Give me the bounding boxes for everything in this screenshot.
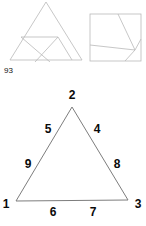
segment-label-9: 9 [25, 158, 32, 170]
square-outline [90, 14, 141, 61]
segment-label-8: 8 [114, 158, 121, 170]
figure-caption: 93 [4, 66, 13, 76]
page-canvas: 93 2 5 4 9 8 1 6 7 3 [0, 0, 146, 226]
labelled-triangle-svg [0, 86, 146, 226]
segment-label-7: 7 [90, 206, 97, 218]
vertex-label-3: 3 [135, 198, 142, 210]
vertex-label-2: 2 [69, 89, 76, 101]
square-internal-segment-1 [118, 14, 135, 50]
segment-label-4: 4 [94, 123, 101, 135]
square-internal-segment-2 [90, 45, 135, 50]
subdivided-square-figure [88, 12, 143, 63]
segment-label-5: 5 [45, 123, 52, 135]
subdivided-square-svg [88, 12, 143, 63]
triangle-internal-segment-3 [35, 37, 58, 62]
square-internal-segment-3 [135, 39, 141, 50]
triangle-outline [10, 2, 82, 60]
segment-label-6: 6 [50, 206, 57, 218]
vertex-label-1: 1 [3, 198, 10, 210]
subdivided-triangle-svg [8, 0, 84, 62]
triangle-internal-segment-1 [21, 37, 50, 62]
labelled-triangle-figure: 2 5 4 9 8 1 6 7 3 [0, 86, 146, 226]
reference-figure-row [0, 0, 146, 66]
subdivided-triangle-figure [8, 0, 84, 62]
main-triangle-outline [16, 107, 128, 201]
square-internal-segment-4 [125, 50, 135, 61]
